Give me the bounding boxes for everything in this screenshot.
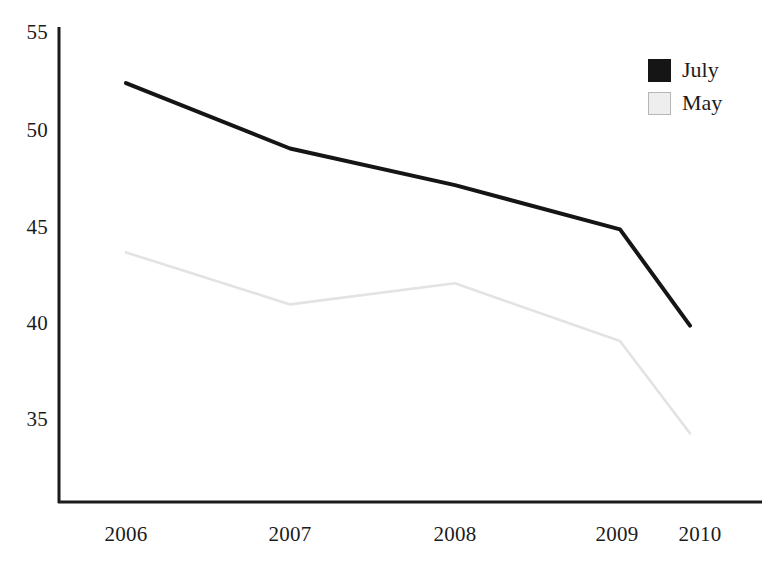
- x-tick-label-2010: 2010: [655, 524, 745, 545]
- y-tick-label-55: 55: [4, 22, 48, 43]
- y-tick-label-35: 35: [4, 409, 48, 430]
- x-tick-label-2006: 2006: [81, 524, 171, 545]
- y-tick-label-40: 40: [4, 313, 48, 334]
- line-chart: 55 50 45 40 35 2006 2007 2008 2009 2010 …: [0, 0, 770, 566]
- legend-label-july: July: [682, 59, 719, 81]
- legend-swatch-may-icon: [648, 92, 671, 115]
- legend-item-may[interactable]: May: [648, 91, 722, 115]
- legend-label-may: May: [682, 92, 722, 114]
- y-tick-label-50: 50: [4, 120, 48, 141]
- legend-item-july[interactable]: July: [648, 58, 722, 82]
- x-tick-label-2007: 2007: [245, 524, 335, 545]
- chart-legend: July May: [648, 58, 722, 115]
- x-tick-label-2009: 2009: [572, 524, 662, 545]
- legend-swatch-july-icon: [648, 59, 671, 82]
- y-tick-label-45: 45: [4, 217, 48, 238]
- x-tick-label-2008: 2008: [410, 524, 500, 545]
